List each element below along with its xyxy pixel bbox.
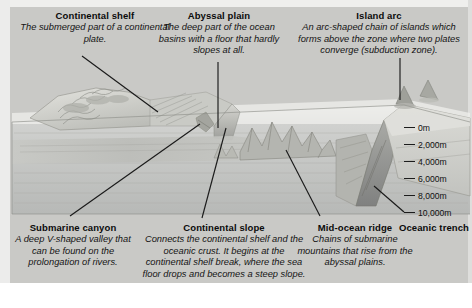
annotation-island-arc: Island arc An arc-shaped chain of island… (292, 10, 466, 57)
annotation-continental-shelf: Continental shelf The submerged part of … (20, 10, 170, 45)
depth-tick-mark (404, 161, 415, 162)
annotation-oceanic-trench: Oceanic trench (398, 222, 470, 234)
caption-bar: Ocean bottom topography. This schematic … (0, 283, 472, 308)
depth-tick-row: 10,000m (404, 203, 451, 214)
annotation-title: Island arc (292, 10, 466, 22)
depth-label: 6,000m (418, 174, 447, 184)
continental-shelf-block (30, 88, 168, 130)
depth-tick-row: 8,000m (404, 186, 447, 197)
depth-label: 10,000m (418, 208, 451, 218)
depth-label: 2,000m (418, 140, 447, 150)
depth-tick-row: 2,000m (404, 135, 447, 146)
depth-tick-row: 4,000m (404, 152, 447, 163)
annotation-title: Mid-ocean ridge (296, 222, 414, 234)
depth-tick-mark (404, 212, 415, 213)
annotation-continental-slope: Continental slope Connects the continent… (140, 222, 308, 280)
depth-scale: 0m 2,000m 4,000m 6,000m 8,000m 10,000m (404, 118, 470, 214)
annotation-description: The deep part of the ocean basins with a… (152, 22, 286, 57)
annotation-title: Continental shelf (20, 10, 170, 22)
depth-tick-mark (404, 127, 415, 128)
depth-label: 4,000m (418, 157, 447, 167)
depth-tick-row: 0m (404, 118, 430, 129)
depth-tick-mark (404, 195, 415, 196)
depth-tick-mark (404, 178, 415, 179)
depth-tick-row: 6,000m (404, 169, 447, 180)
annotation-title: Oceanic trench (398, 222, 470, 234)
depth-label: 0m (418, 123, 430, 133)
figure-page: Continental shelf The submerged part of … (0, 0, 472, 308)
annotation-mid-ocean-ridge: Mid-ocean ridge Chains of submarine moun… (296, 222, 414, 269)
depth-tick-mark (404, 144, 415, 145)
annotation-submarine-canyon: Submarine canyon A deep V-shaped valley … (8, 222, 138, 269)
annotation-title: Abyssal plain (152, 10, 286, 22)
annotation-description: An arc-shaped chain of islands which for… (292, 22, 466, 57)
annotation-abyssal-plain: Abyssal plain The deep part of the ocean… (152, 10, 286, 57)
depth-label: 8,000m (418, 191, 447, 201)
annotation-title: Continental slope (140, 222, 308, 234)
annotation-description: A deep V-shaped valley that can be found… (8, 234, 138, 269)
annotation-description: Connects the continental shelf and the o… (140, 234, 308, 280)
annotation-description: The submerged part of a continental plat… (20, 22, 170, 45)
annotation-title: Submarine canyon (8, 222, 138, 234)
annotation-description: Chains of submarine mountains that rise … (296, 234, 414, 269)
ocean-topography-figure: Continental shelf The submerged part of … (0, 0, 472, 283)
